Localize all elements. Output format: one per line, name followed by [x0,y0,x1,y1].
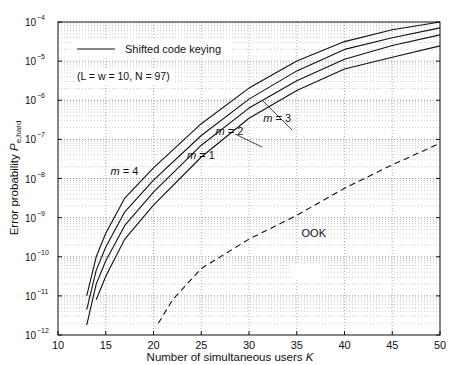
y-tick-exponent: −4 [37,14,45,21]
y-tick-exponent: −9 [37,210,45,217]
series-label: m = 1 [187,149,215,161]
error-probability-chart: 10152025303540455010−410−510−610−710−810… [0,0,460,365]
x-tick-label: 35 [291,339,303,351]
y-tick-exponent: −5 [37,53,45,60]
x-tick-label: 30 [243,339,255,351]
series-label: m = 4 [111,165,139,177]
x-tick-label: 20 [147,339,159,351]
ook-label-bg [290,264,322,278]
y-axis-label: Error probability Pe,hard [8,121,23,236]
y-tick-label: 10 [25,291,37,302]
y-tick-exponent: −10 [37,249,49,256]
y-tick-exponent: −11 [37,288,48,295]
y-tick-exponent: −12 [37,327,49,334]
series-label: m = 3 [263,112,291,124]
y-tick-label: 10 [25,17,37,28]
params-note: (L = w = 10, N = 97) [77,70,170,82]
y-tick-exponent: −6 [37,92,45,99]
y-tick-exponent: −7 [37,131,45,138]
y-tick-label: 10 [25,330,37,341]
y-tick-label: 10 [25,174,37,185]
x-tick-label: 45 [386,339,398,351]
y-tick-label: 10 [25,134,37,145]
y-tick-label: 10 [25,95,37,106]
x-tick-label: 10 [52,339,64,351]
series-lines [87,22,440,325]
x-tick-label: 40 [338,339,350,351]
x-tick-label: 25 [195,339,207,351]
x-tick-label: 50 [434,339,446,351]
x-axis-label: Number of simultaneous users K [147,351,315,363]
series-label: OOK [302,227,327,239]
axis-labels: Number of simultaneous users KError prob… [8,121,315,363]
y-tick-label: 10 [25,252,37,263]
y-tick-label: 10 [25,56,37,67]
x-tick-label: 15 [100,339,112,351]
y-tick-exponent: −8 [37,171,45,178]
y-tick-label: 10 [25,213,37,224]
chart-canvas: 10152025303540455010−410−510−610−710−810… [0,0,460,365]
leader-line-m2 [235,134,262,147]
legend-label: Shifted code keying [125,43,221,55]
